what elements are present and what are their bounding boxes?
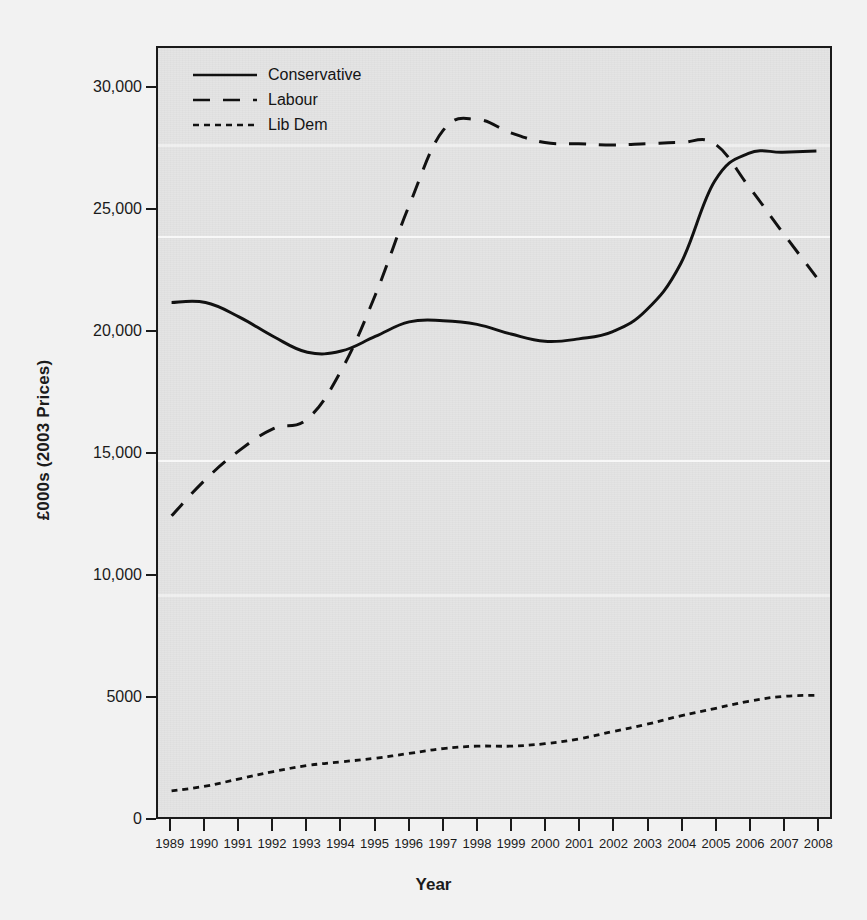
- legend-swatch-dotted-icon: [192, 118, 258, 132]
- legend-swatch-solid-icon: [192, 68, 258, 82]
- y-tick-label: 0: [0, 810, 156, 828]
- y-tick-mark: [146, 574, 156, 576]
- x-tick-mark: [749, 819, 751, 831]
- x-tick-label: 2007: [770, 836, 799, 851]
- x-tick-mark: [544, 819, 546, 831]
- x-axis-label: Year: [0, 875, 867, 895]
- x-tick-mark: [442, 819, 444, 831]
- x-tick-label: 2000: [531, 836, 560, 851]
- x-tick-mark: [612, 819, 614, 831]
- x-tick-label: 1998: [462, 836, 491, 851]
- x-tick-label: 2005: [701, 836, 730, 851]
- y-tick-label: 10,000: [0, 566, 156, 584]
- x-tick-label: 1997: [428, 836, 457, 851]
- legend-swatch-dashed-icon: [192, 93, 258, 107]
- x-tick-label: 1995: [360, 836, 389, 851]
- x-tick-mark: [203, 819, 205, 831]
- x-tick-mark: [510, 819, 512, 831]
- x-tick-label: 1991: [223, 836, 252, 851]
- series-lines: [158, 48, 830, 816]
- series-line-labour: [172, 118, 817, 516]
- series-line-conservative: [172, 151, 817, 354]
- x-tick-mark: [408, 819, 410, 831]
- y-tick-mark: [146, 330, 156, 332]
- y-tick-label: 25,000: [0, 200, 156, 218]
- x-tick-label: 2006: [736, 836, 765, 851]
- y-tick-label: 20,000: [0, 322, 156, 340]
- x-tick-mark: [476, 819, 478, 831]
- x-tick-mark: [271, 819, 273, 831]
- x-tick-mark: [374, 819, 376, 831]
- series-line-lib-dem: [172, 695, 817, 791]
- legend-item-conservative: Conservative: [192, 66, 361, 84]
- y-tick-mark: [146, 86, 156, 88]
- x-tick-label: 1994: [326, 836, 355, 851]
- x-tick-mark: [578, 819, 580, 831]
- x-tick-mark: [715, 819, 717, 831]
- x-tick-label: 1996: [394, 836, 423, 851]
- plot-area: Conservative Labour Lib Dem: [156, 46, 832, 819]
- y-axis-label: £000s (2003 Prices): [34, 310, 54, 570]
- y-tick-label: 30,000: [0, 78, 156, 96]
- x-tick-label: 1989: [155, 836, 184, 851]
- x-tick-label: 2004: [667, 836, 696, 851]
- legend-label-conservative: Conservative: [268, 66, 361, 84]
- x-tick-label: 1999: [497, 836, 526, 851]
- x-tick-mark: [681, 819, 683, 831]
- x-tick-label: 2003: [633, 836, 662, 851]
- y-tick-mark: [146, 208, 156, 210]
- x-tick-label: 1992: [258, 836, 287, 851]
- x-tick-mark: [783, 819, 785, 831]
- x-tick-mark: [305, 819, 307, 831]
- legend-label-libdem: Lib Dem: [268, 116, 328, 134]
- x-tick-label: 1990: [189, 836, 218, 851]
- y-tick-label: 5000: [0, 688, 156, 706]
- y-tick-mark: [146, 818, 156, 820]
- x-tick-label: 2008: [804, 836, 833, 851]
- x-tick-mark: [169, 819, 171, 831]
- chart-figure: £000s (2003 Prices) Year 0500010,00015,0…: [0, 0, 867, 920]
- x-tick-label: 2001: [565, 836, 594, 851]
- y-tick-mark: [146, 696, 156, 698]
- x-tick-mark: [817, 819, 819, 831]
- legend-label-labour: Labour: [268, 91, 318, 109]
- x-tick-mark: [339, 819, 341, 831]
- x-tick-label: 1993: [292, 836, 321, 851]
- y-tick-label: 15,000: [0, 444, 156, 462]
- legend-item-labour: Labour: [192, 91, 361, 109]
- x-tick-label: 2002: [599, 836, 628, 851]
- y-tick-mark: [146, 452, 156, 454]
- x-tick-mark: [237, 819, 239, 831]
- legend: Conservative Labour Lib Dem: [192, 66, 361, 134]
- x-tick-mark: [647, 819, 649, 831]
- legend-item-libdem: Lib Dem: [192, 116, 361, 134]
